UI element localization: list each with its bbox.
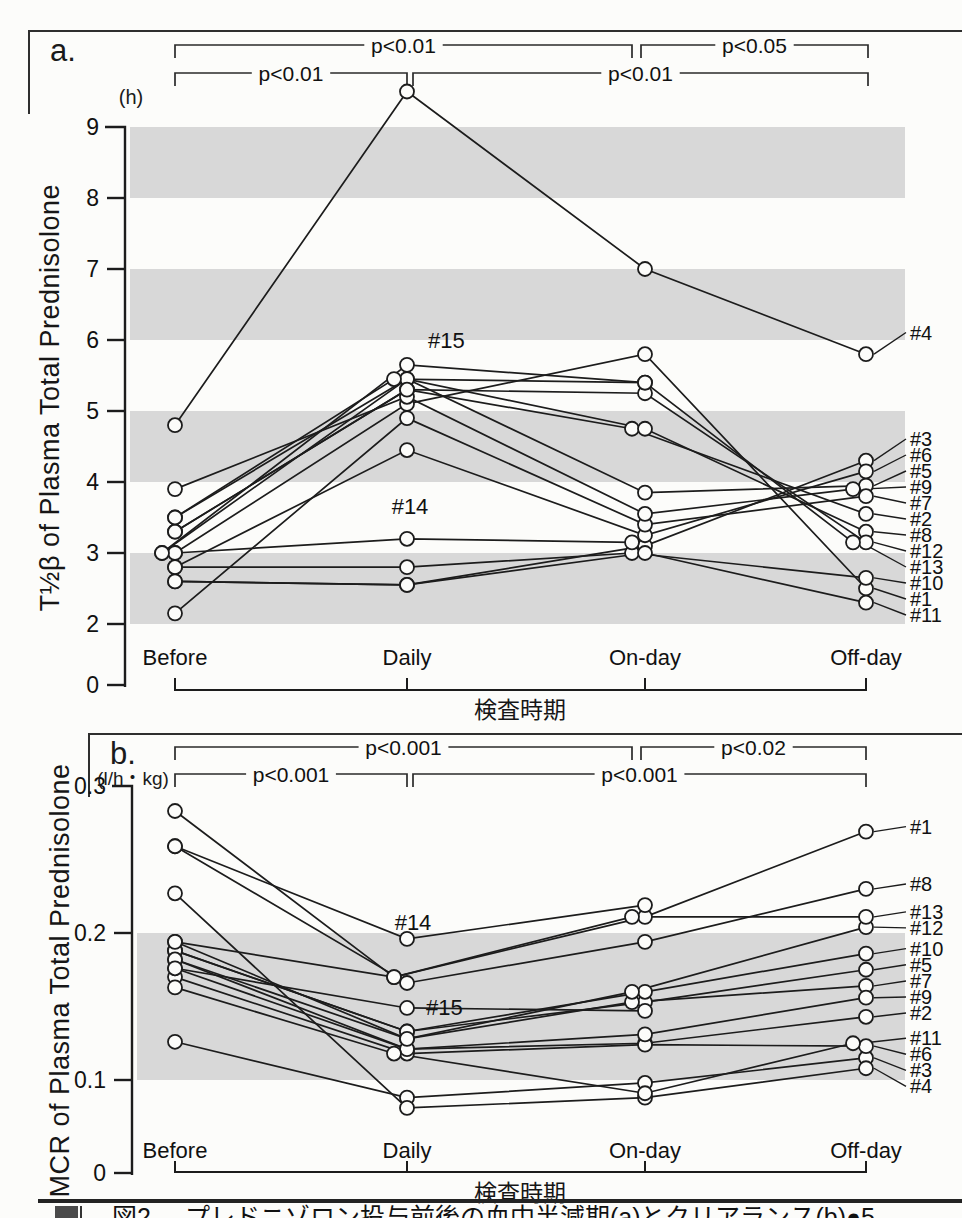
- end-label-leader: [874, 514, 906, 519]
- panel-b-y-axis-title: MCR of Plasma Total Prednisolone: [45, 631, 76, 1218]
- shaded-band: [130, 553, 905, 624]
- x-axis-bracket: [175, 1161, 866, 1172]
- data-point-#4: [400, 1101, 414, 1115]
- data-point-#9: [846, 482, 860, 496]
- significance-label: p<0.01: [608, 62, 673, 85]
- panel-b: 0.30.20.10p<0.001p<0.02p<0.001p<0.001Bef…: [74, 736, 943, 1186]
- data-point-#11: [846, 1036, 860, 1050]
- data-point-#11: [168, 980, 182, 994]
- data-point-#1: [168, 804, 182, 818]
- subject-end-label: #11: [910, 604, 942, 626]
- data-point-#9: [859, 991, 873, 1005]
- subject-inline-label: #14: [395, 910, 432, 935]
- caption-text: プレドニゾロン投与前後の血中半減期(a)とクリアランス(b)●5: [185, 1204, 875, 1218]
- data-point-#11: [168, 574, 182, 588]
- data-point-#13: [168, 935, 182, 949]
- data-point-#12: [625, 985, 639, 999]
- subject-end-label: #4: [910, 322, 932, 344]
- data-point-#7: [859, 489, 873, 503]
- x-category-label: On-day: [609, 1138, 681, 1163]
- significance-label: p<0.001: [601, 763, 678, 786]
- data-point-#4: [168, 418, 182, 432]
- y-tick-label: 5: [86, 398, 99, 424]
- caption-divider-rule: [38, 1199, 962, 1203]
- data-point-#3: [168, 1035, 182, 1049]
- y-tick-label: 7: [86, 256, 99, 282]
- end-label-leader: [874, 532, 906, 535]
- y-axis: [112, 786, 132, 1175]
- end-label-leader: [874, 997, 906, 998]
- data-point-#14: [625, 535, 639, 549]
- x-category-label: Before: [143, 1138, 208, 1163]
- figure-caption: 図2 プレドニゾロン投与前後の血中半減期(a)とクリアランス(b)●5: [0, 1204, 962, 1218]
- data-point-#8: [400, 976, 414, 990]
- panel-b-unit-label: (l/h・kg): [88, 763, 178, 790]
- data-point-#15: [638, 376, 652, 390]
- subject-end-label: #2: [910, 1002, 932, 1024]
- dual-panel-line-chart: 987654320p<0.01p<0.05p<0.01p<0.01BeforeD…: [0, 0, 962, 1218]
- y-tick-label: 6: [86, 327, 99, 353]
- x-category-label: Daily: [383, 1138, 432, 1163]
- subject-inline-label: #15: [426, 995, 463, 1020]
- x-category-label: Daily: [383, 645, 432, 670]
- significance-label: p<0.01: [371, 34, 436, 57]
- data-point-#6: [400, 443, 414, 457]
- data-point-#7: [168, 606, 182, 620]
- data-point-#12: [400, 1032, 414, 1046]
- y-tick-label: 0.2: [74, 920, 106, 946]
- end-label-leader: [874, 927, 906, 928]
- data-point-#6: [859, 464, 873, 478]
- end-label-leader: [874, 884, 906, 889]
- y-tick-label: 4: [86, 469, 99, 495]
- x-category-label: On-day: [609, 645, 681, 670]
- data-point-#11: [400, 578, 414, 592]
- data-point-#12: [168, 525, 182, 539]
- data-point-#14: [168, 546, 182, 560]
- data-point-#9: [168, 482, 182, 496]
- caption-figure-number: 図2: [112, 1204, 151, 1218]
- data-point-#11: [638, 546, 652, 560]
- panel-a-unit-label: (h): [96, 86, 166, 109]
- data-point-#8: [859, 882, 873, 896]
- y-axis: [105, 127, 125, 687]
- data-point-#15: [638, 1004, 652, 1018]
- data-point-#9: [638, 1027, 652, 1041]
- subject-end-label: #1: [910, 816, 932, 838]
- data-point-#9: [638, 507, 652, 521]
- end-label-leader: [874, 542, 906, 551]
- y-tick-label: 0: [86, 672, 99, 698]
- data-point-#15: [400, 358, 414, 372]
- shaded-band: [130, 127, 905, 198]
- data-point-#4: [168, 886, 182, 900]
- data-point-#11: [387, 1047, 401, 1061]
- y-tick-label: 8: [86, 185, 99, 211]
- data-point-#15: [400, 1001, 414, 1015]
- data-point-#13: [168, 511, 182, 525]
- end-label-leader: [874, 496, 906, 503]
- data-point-#4: [859, 347, 873, 361]
- subject-inline-label: #15: [428, 328, 465, 353]
- data-point-#8: [638, 935, 652, 949]
- figure-page: { "x_axis_title": "検査時期", "categories": …: [0, 0, 962, 1218]
- data-point-#2: [859, 507, 873, 521]
- data-point-#10: [859, 571, 873, 585]
- data-point-#10: [859, 947, 873, 961]
- end-label-leader: [874, 912, 906, 917]
- y-tick-label: 0: [93, 1160, 106, 1186]
- data-point-#13: [387, 372, 401, 386]
- data-point-#14: [638, 898, 652, 912]
- data-point-#5: [638, 486, 652, 500]
- data-point-#10: [638, 985, 652, 999]
- subject-end-label: #12: [910, 917, 943, 939]
- data-point-#7: [400, 411, 414, 425]
- y-tick-label: 9: [86, 114, 99, 140]
- panel-a: 987654320p<0.01p<0.05p<0.01p<0.01BeforeD…: [86, 34, 943, 698]
- subject-end-label: #4: [910, 1075, 932, 1097]
- data-point-#5: [859, 963, 873, 977]
- data-point-#13: [387, 970, 401, 984]
- data-point-#13: [846, 535, 860, 549]
- data-point-#10: [400, 560, 414, 574]
- subject-inline-label: #14: [392, 494, 429, 519]
- x-category-label: Off-day: [830, 1138, 902, 1163]
- data-point-#11: [638, 1086, 652, 1100]
